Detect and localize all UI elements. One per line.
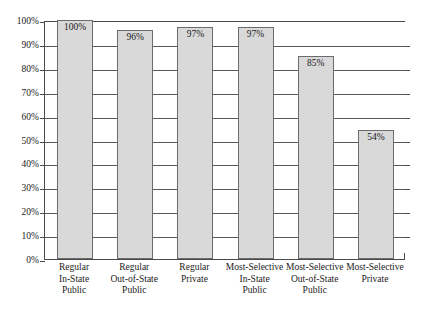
category-label-line: In-State xyxy=(44,274,104,286)
bar: 100% xyxy=(57,20,93,259)
y-axis-tick xyxy=(40,22,45,23)
x-axis-category-label: Most-SelectiveIn-StatePublic xyxy=(225,262,285,297)
bar: 54% xyxy=(358,130,394,259)
bar: 85% xyxy=(298,56,334,259)
y-axis-tick-right xyxy=(405,237,410,238)
gridline xyxy=(45,94,405,95)
y-axis-tick xyxy=(40,165,45,166)
bar-value-label: 100% xyxy=(58,22,92,33)
y-axis-tick-right xyxy=(405,118,410,119)
bar-value-label: 97% xyxy=(239,29,273,40)
bar-value-label: 97% xyxy=(178,29,212,40)
gridline xyxy=(45,165,405,166)
category-label-line: Regular xyxy=(44,262,104,274)
y-axis-tick-label: 10% xyxy=(0,231,39,241)
category-label-line: Regular xyxy=(164,262,224,274)
bar: 96% xyxy=(117,30,153,259)
y-axis-tick-label: 30% xyxy=(0,183,39,193)
bar: 97% xyxy=(238,27,274,259)
plot-area: 100%96%97%97%85%54% xyxy=(44,21,405,260)
y-axis-tick-label: 40% xyxy=(0,159,39,169)
category-label-line: Public xyxy=(285,285,345,297)
y-axis-tick xyxy=(40,70,45,71)
bar-value-label: 85% xyxy=(299,58,333,69)
y-axis-tick-label: 90% xyxy=(0,40,39,50)
y-axis-tick-label: 80% xyxy=(0,64,39,74)
category-label-line: Public xyxy=(225,285,285,297)
category-label-line: Most-Selective xyxy=(285,262,345,274)
y-axis-tick-right xyxy=(405,165,410,166)
y-axis-tick-label: 60% xyxy=(0,112,39,122)
category-label-line: Most-Selective xyxy=(225,262,285,274)
x-axis-category-label: Most-SelectivePrivate xyxy=(345,262,405,285)
bar-chart: 100%90%80%70%60%50%40%30%20%10%0% 100%96… xyxy=(0,0,421,309)
gridline xyxy=(45,118,405,119)
y-axis-tick-label: 20% xyxy=(0,207,39,217)
gridline xyxy=(45,213,405,214)
y-axis-tick-right xyxy=(405,46,410,47)
y-axis-tick xyxy=(40,118,45,119)
y-axis-tick-right xyxy=(405,142,410,143)
x-axis-category-label: Most-SelectiveOut-of-StatePublic xyxy=(285,262,345,297)
y-axis-tick-right xyxy=(405,189,410,190)
category-label-line: Regular xyxy=(104,262,164,274)
category-label-line: Private xyxy=(345,274,405,286)
gridline xyxy=(45,189,405,190)
y-axis-tick xyxy=(40,237,45,238)
category-label-line: Most-Selective xyxy=(345,262,405,274)
x-axis-category-labels: RegularIn-StatePublicRegularOut-of-State… xyxy=(44,262,405,307)
bar-value-label: 96% xyxy=(118,32,152,43)
bar-value-label: 54% xyxy=(359,132,393,143)
category-label-line: Out-of-State xyxy=(104,274,164,286)
y-axis-tick-right xyxy=(405,213,410,214)
gridline xyxy=(45,70,405,71)
y-axis-tick-label: 0% xyxy=(0,255,39,265)
bar: 97% xyxy=(177,27,213,259)
y-axis-tick-right xyxy=(405,94,410,95)
y-axis-tick xyxy=(40,142,45,143)
category-label-line: Private xyxy=(164,274,224,286)
category-label-line: Out-of-State xyxy=(285,274,345,286)
gridline xyxy=(45,142,405,143)
x-axis-category-label: RegularPrivate xyxy=(164,262,224,285)
y-axis-tick-right xyxy=(405,70,410,71)
category-label-line: Public xyxy=(44,285,104,297)
category-label-line: In-State xyxy=(225,274,285,286)
y-axis-tick xyxy=(40,46,45,47)
y-axis-tick xyxy=(40,94,45,95)
axis-end-cap xyxy=(404,253,405,259)
y-axis-tick xyxy=(40,189,45,190)
gridline xyxy=(45,46,405,47)
y-axis-tick-labels: 100%90%80%70%60%50%40%30%20%10%0% xyxy=(0,21,41,260)
y-axis-tick-label: 100% xyxy=(0,16,39,26)
gridline xyxy=(45,237,405,238)
y-axis-tick-label: 70% xyxy=(0,88,39,98)
category-label-line: Public xyxy=(104,285,164,297)
x-axis-category-label: RegularIn-StatePublic xyxy=(44,262,104,297)
x-axis-category-label: RegularOut-of-StatePublic xyxy=(104,262,164,297)
y-axis-tick-label: 50% xyxy=(0,136,39,146)
y-axis-tick xyxy=(40,213,45,214)
